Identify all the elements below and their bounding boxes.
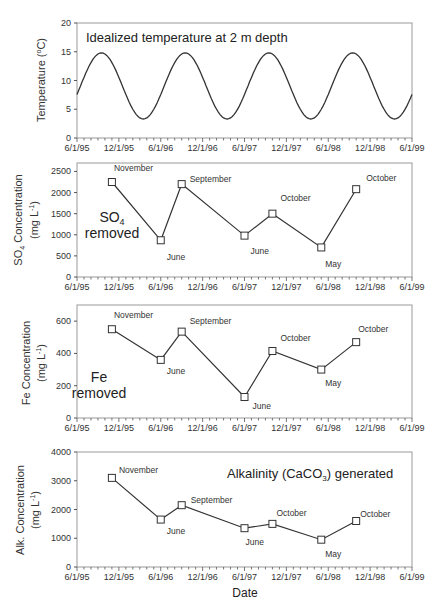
data-marker xyxy=(241,232,248,239)
y-tick-label: 5 xyxy=(66,104,71,114)
x-tick-label: 6/1/97 xyxy=(232,143,257,153)
x-tick-label: 12/1/97 xyxy=(271,572,301,582)
data-marker xyxy=(157,356,164,363)
fe-annotation-line2: removed xyxy=(72,385,126,401)
x-tick-label: 12/1/98 xyxy=(355,282,385,292)
x-tick-label: 6/1/99 xyxy=(399,143,424,153)
y-tick-label: 3000 xyxy=(51,476,71,486)
so4-ylabel-units: (mg L-1) xyxy=(28,201,40,239)
x-tick-label: 6/1/98 xyxy=(316,282,341,292)
chart-figure: 051015206/1/9512/1/956/1/9612/1/966/1/97… xyxy=(0,0,441,606)
point-label: October xyxy=(280,333,310,343)
point-label: May xyxy=(325,549,342,559)
y-tick-label: 15 xyxy=(61,47,71,57)
fe-ylabel: Fe Concentration xyxy=(20,321,32,405)
point-label: September xyxy=(190,174,232,184)
point-label: November xyxy=(114,163,153,173)
y-tick-label: 2000 xyxy=(51,188,71,198)
point-label: October xyxy=(358,324,388,334)
data-marker xyxy=(157,516,164,523)
x-tick-label: 6/1/98 xyxy=(316,423,341,433)
x-tick-label: 12/1/95 xyxy=(104,423,134,433)
data-marker xyxy=(178,328,185,335)
point-label: May xyxy=(325,259,342,269)
data-marker xyxy=(269,520,276,527)
y-tick-label: 1000 xyxy=(51,533,71,543)
y-tick-label: 0 xyxy=(66,133,71,143)
y-tick-label: 10 xyxy=(61,76,71,86)
temperature-panel: 051015206/1/9512/1/956/1/9612/1/966/1/97… xyxy=(35,18,425,153)
x-tick-label: 12/1/96 xyxy=(188,423,218,433)
data-marker xyxy=(318,536,325,543)
point-label: June xyxy=(253,401,272,411)
point-label: September xyxy=(190,316,232,326)
x-tick-label: 12/1/96 xyxy=(188,143,218,153)
data-marker xyxy=(318,244,325,251)
data-line xyxy=(112,182,356,247)
y-tick-label: 0 xyxy=(66,562,71,572)
x-tick-label: 6/1/96 xyxy=(148,282,173,292)
x-tick-label: 12/1/98 xyxy=(355,572,385,582)
plot-frame xyxy=(77,305,412,418)
x-tick-label: 12/1/98 xyxy=(355,423,385,433)
x-tick-label: 6/1/99 xyxy=(399,423,424,433)
data-marker xyxy=(353,186,360,193)
point-label: October xyxy=(276,508,306,518)
x-tick-label: 6/1/99 xyxy=(399,572,424,582)
point-label: November xyxy=(119,465,158,475)
x-tick-label: 12/1/96 xyxy=(188,282,218,292)
data-marker xyxy=(241,525,248,532)
date-xlabel: Date xyxy=(232,586,258,600)
data-marker xyxy=(241,394,248,401)
data-marker xyxy=(178,181,185,188)
fe-panel: 02004006006/1/9512/1/956/1/9612/1/966/1/… xyxy=(20,305,425,433)
y-tick-label: 4000 xyxy=(51,447,71,457)
data-marker xyxy=(269,348,276,355)
x-tick-label: 6/1/97 xyxy=(232,423,257,433)
point-label: October xyxy=(366,173,396,183)
point-label: June xyxy=(167,526,186,536)
data-line xyxy=(112,478,356,540)
point-label: November xyxy=(114,310,153,320)
y-tick-label: 400 xyxy=(56,348,71,358)
fe-ylabel-units: (mg L-1) xyxy=(35,344,47,382)
temperature-curve xyxy=(77,53,412,119)
plot-frame xyxy=(77,163,412,277)
x-tick-label: 6/1/95 xyxy=(64,572,89,582)
data-marker xyxy=(108,326,115,333)
point-label: May xyxy=(325,378,342,388)
point-label: October xyxy=(280,193,310,203)
y-tick-label: 200 xyxy=(56,381,71,391)
x-tick-label: 12/1/97 xyxy=(271,282,301,292)
point-label: October xyxy=(360,509,390,519)
x-tick-label: 6/1/95 xyxy=(64,423,89,433)
x-tick-label: 6/1/97 xyxy=(232,282,257,292)
data-marker xyxy=(269,210,276,217)
so4-ylabel: SO4 Concentration xyxy=(12,174,26,265)
point-label: June xyxy=(246,537,265,547)
x-tick-label: 6/1/96 xyxy=(148,143,173,153)
x-tick-label: 12/1/95 xyxy=(104,572,134,582)
so4-annotation-line2: removed xyxy=(85,225,139,241)
data-marker xyxy=(353,339,360,346)
data-marker xyxy=(353,518,360,525)
y-tick-label: 2500 xyxy=(51,166,71,176)
so4-panel: 050010001500200025006/1/9512/1/956/1/961… xyxy=(12,163,425,292)
y-tick-label: 1500 xyxy=(51,209,71,219)
x-tick-label: 12/1/98 xyxy=(355,143,385,153)
x-tick-label: 6/1/98 xyxy=(316,143,341,153)
x-tick-label: 12/1/95 xyxy=(104,282,134,292)
temperature-ylabel: Temperature (oC) xyxy=(35,38,47,122)
data-line xyxy=(112,329,356,397)
y-tick-label: 500 xyxy=(56,251,71,261)
x-tick-label: 12/1/97 xyxy=(271,143,301,153)
y-tick-label: 600 xyxy=(56,316,71,326)
data-marker xyxy=(108,474,115,481)
temperature-title: Idealized temperature at 2 m depth xyxy=(86,30,288,45)
point-label: June xyxy=(167,252,186,262)
alkalinity-ylabel: Alk. Concentration xyxy=(14,465,26,555)
point-label: June xyxy=(167,366,186,376)
alkalinity-annotation: Alkalinity (CaCO3) generated xyxy=(227,466,393,483)
x-tick-label: 12/1/95 xyxy=(104,143,134,153)
point-label: June xyxy=(251,246,270,256)
